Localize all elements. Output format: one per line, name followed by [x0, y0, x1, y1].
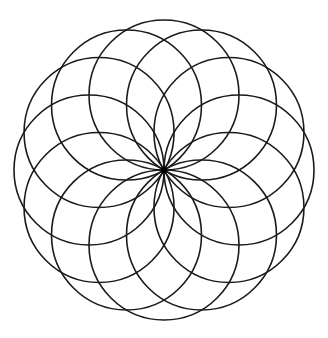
- center-point: [161, 167, 167, 173]
- rosette-diagram: [0, 0, 328, 338]
